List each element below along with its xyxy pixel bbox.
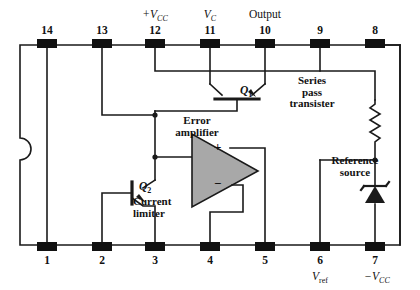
zener-diode — [365, 186, 385, 203]
circuit-diagram: 14 13 12 11 10 9 8 +VCC VC Output 1 2 3 … — [0, 0, 420, 290]
q1-caption: Series pass transister — [275, 75, 349, 110]
pin-pad-8 — [365, 39, 385, 48]
reference-source-line2: source — [324, 167, 386, 179]
pin-pad-7 — [365, 242, 385, 251]
q1-caption-line3: transister — [275, 98, 349, 110]
pin-number-4: 4 — [207, 254, 213, 266]
q1-label: Q1 — [240, 84, 252, 100]
pin-pad-10 — [255, 39, 275, 48]
q1-label-sub: 1 — [248, 90, 252, 99]
pin-label-vcc-positive: +VCC — [142, 8, 167, 24]
q2-caption-line2: limiter — [133, 208, 195, 220]
pin-pad-3 — [145, 242, 165, 251]
error-amplifier-line1: Error — [163, 115, 231, 127]
pin-pad-14 — [37, 39, 57, 48]
pin-label-vref: Vref — [312, 270, 328, 286]
wire-pin11-q1-collector — [210, 45, 222, 95]
pin-label-vcc-neg-text: −V — [364, 270, 379, 282]
pin-label-vcc-neg-sub: CC — [379, 276, 390, 285]
pin-pad-2 — [92, 242, 112, 251]
pin-label-vref-sub: ref — [319, 276, 328, 285]
pin-label-vcc-sub: CC — [157, 14, 168, 23]
pin-number-11: 11 — [205, 24, 216, 36]
opamp-minus-input-sign: − — [214, 177, 221, 191]
pin-pad-1 — [37, 242, 57, 251]
resistor-zigzag — [370, 100, 380, 160]
pin-number-8: 8 — [372, 24, 378, 36]
pin-pad-11 — [200, 39, 220, 48]
q1-caption-line1: Series — [275, 75, 349, 87]
q2-label-sub: 2 — [147, 186, 151, 195]
error-amplifier-label: Error amplifier — [163, 115, 231, 138]
wire-pin10-q1-emitter — [252, 45, 265, 95]
pin-number-7: 7 — [372, 254, 378, 266]
pin-label-output: Output — [249, 8, 281, 20]
pin-number-12: 12 — [149, 24, 161, 36]
pin-pad-5 — [255, 242, 275, 251]
pin-label-vref-text: V — [312, 270, 319, 282]
pin-number-10: 10 — [259, 24, 271, 36]
pin-label-vcc-negative: −VCC — [364, 270, 389, 286]
wire-pin13-to-node — [102, 45, 155, 115]
pin-label-vc: VC — [204, 8, 216, 24]
error-amplifier-triangle — [192, 134, 258, 207]
pin-pad-6 — [310, 242, 330, 251]
error-amplifier-line2: amplifier — [163, 127, 231, 139]
pin-pad-12 — [145, 39, 165, 48]
pin-pad-4 — [200, 242, 220, 251]
pin-number-3: 3 — [152, 254, 158, 266]
q2-caption-line1: Current — [133, 196, 195, 208]
wire-q2-base-pin2 — [102, 193, 132, 245]
reference-source-label: Reference source — [324, 155, 386, 178]
wire-pin8-to-pin7 — [375, 45, 400, 245]
reference-source-line1: Reference — [324, 155, 386, 167]
opamp-plus-input-sign: + — [214, 140, 221, 154]
pin-label-vcc-text: +V — [142, 8, 157, 20]
pin-number-14: 14 — [41, 24, 53, 36]
pin-number-13: 13 — [96, 24, 108, 36]
pin-label-vc-sub: C — [211, 14, 216, 23]
pin-pad-13 — [92, 39, 112, 48]
q2-label: Q2 — [139, 180, 151, 196]
pin-number-9: 9 — [317, 24, 323, 36]
pin-label-vc-text: V — [204, 8, 211, 20]
circuit-schematic-svg — [0, 0, 420, 290]
pin-number-1: 1 — [44, 254, 50, 266]
q2-caption: Current limiter — [133, 196, 195, 219]
wire-q1-base — [155, 99, 237, 111]
pin-pad-9 — [310, 39, 330, 48]
pin-number-6: 6 — [317, 254, 323, 266]
pin-number-2: 2 — [99, 254, 105, 266]
pin-number-5: 5 — [262, 254, 268, 266]
